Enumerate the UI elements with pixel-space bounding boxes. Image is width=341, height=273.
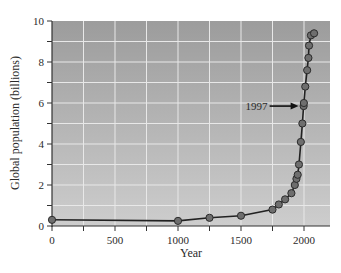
data-point: [300, 99, 307, 106]
data-point: [310, 30, 317, 37]
y-tick-label: 8: [39, 56, 45, 68]
x-tick-label: 1500: [230, 234, 253, 246]
y-tick-label: 2: [39, 179, 45, 191]
data-point: [288, 190, 295, 197]
data-point: [294, 171, 301, 178]
y-tick-label: 0: [39, 220, 45, 232]
data-point: [297, 138, 304, 145]
x-axis-label: Year: [180, 246, 202, 260]
data-point: [305, 54, 312, 61]
x-tick-label: 0: [49, 234, 55, 246]
x-tick-label: 2000: [293, 234, 316, 246]
data-point: [275, 201, 282, 208]
data-point: [269, 206, 276, 213]
data-point: [48, 216, 55, 223]
y-tick-label: 6: [39, 97, 45, 109]
data-point: [174, 217, 181, 224]
data-point: [206, 214, 213, 221]
data-point: [304, 67, 311, 74]
y-tick-label: 10: [33, 15, 45, 27]
population-chart: 05001000150020000246810 1997 Year Global…: [0, 0, 341, 273]
annotation-label: 1997: [246, 100, 269, 112]
data-point: [237, 212, 244, 219]
data-point: [295, 161, 302, 168]
y-axis-label: Global population (billions): [8, 56, 22, 190]
y-tick-label: 4: [39, 138, 45, 150]
data-point: [302, 83, 309, 90]
data-point: [282, 196, 289, 203]
x-tick-label: 1000: [167, 234, 190, 246]
x-tick-label: 500: [107, 234, 124, 246]
data-point: [299, 120, 306, 127]
data-point: [305, 42, 312, 49]
